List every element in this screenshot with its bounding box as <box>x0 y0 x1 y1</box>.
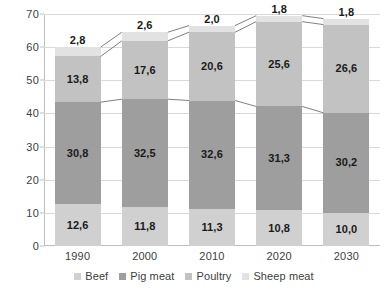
bar-segment-poultry[interactable]: 26,6 <box>323 25 369 113</box>
bar-segment-value-label: 32,6 <box>201 149 223 160</box>
chart-legend: BeefPig meatPoultrySheep meat <box>0 270 388 282</box>
x-axis-label-2000: 2000 <box>132 250 157 262</box>
bar-segment-poultry[interactable]: 20,6 <box>189 32 235 100</box>
bar-segment-sheep-meat[interactable]: 1,8 <box>323 19 369 25</box>
legend-swatch-icon <box>242 273 249 280</box>
bar-group-2000[interactable]: 11,832,517,62,6 <box>122 14 168 246</box>
bar-segment-value-label: 30,8 <box>67 148 89 159</box>
bar-segment-value-label: 13,8 <box>67 74 89 85</box>
bar-segment-value-label: 10,0 <box>335 224 357 235</box>
y-axis-tick-label: 30 <box>26 141 39 153</box>
y-axis-tick-label: 20 <box>26 174 39 186</box>
legend-item-pig-meat[interactable]: Pig meat <box>119 270 174 282</box>
bar-segment-value-label: 32,5 <box>134 148 156 159</box>
y-axis-tick-label: 10 <box>26 207 39 219</box>
bar-group-2020[interactable]: 10,831,325,61,8 <box>256 14 302 246</box>
bar-segment-beef[interactable]: 12,6 <box>55 204 101 246</box>
bar-segment-value-label: 11,8 <box>134 221 155 232</box>
bar-segment-value-label: 10,8 <box>268 223 290 234</box>
bar-group-2010[interactable]: 11,332,620,62,0 <box>189 14 235 246</box>
bar-segment-value-label: 2,0 <box>204 14 220 25</box>
bar-segment-value-label: 30,2 <box>335 157 357 168</box>
bar-segment-pig-meat[interactable]: 31,3 <box>256 106 302 210</box>
x-axis-labels: 19902000201020202030 <box>44 250 380 266</box>
bar-segment-sheep-meat[interactable]: 2,8 <box>55 47 101 56</box>
x-axis-label-1990: 1990 <box>65 250 90 262</box>
plot-area: 010203040506070 12,630,813,82,811,832,51… <box>44 14 380 246</box>
bar-group-1990[interactable]: 12,630,813,82,8 <box>55 14 101 246</box>
bar-segment-value-label: 2,8 <box>70 35 86 46</box>
bar-series-container: 12,630,813,82,811,832,517,62,611,332,620… <box>44 14 380 246</box>
bar-segment-sheep-meat[interactable]: 2,6 <box>122 32 168 41</box>
legend-label: Sheep meat <box>253 270 313 282</box>
bar-segment-value-label: 31,3 <box>268 153 290 164</box>
bar-segment-sheep-meat[interactable]: 1,8 <box>256 16 302 22</box>
bar-segment-value-label: 11,3 <box>201 222 222 233</box>
x-axis-label-2010: 2010 <box>199 250 224 262</box>
bar-segment-value-label: 26,6 <box>335 63 357 74</box>
legend-item-beef[interactable]: Beef <box>74 270 108 282</box>
bar-segment-value-label: 2,6 <box>137 20 153 31</box>
bar-segment-value-label: 20,6 <box>201 61 223 72</box>
y-axis-tick-label: 50 <box>26 74 39 86</box>
bar-segment-pig-meat[interactable]: 30,8 <box>55 102 101 204</box>
legend-swatch-icon <box>74 273 81 280</box>
legend-item-poultry[interactable]: Poultry <box>185 270 231 282</box>
x-axis-label-2030: 2030 <box>334 250 359 262</box>
bar-segment-poultry[interactable]: 17,6 <box>122 41 168 99</box>
legend-item-sheep-meat[interactable]: Sheep meat <box>242 270 313 282</box>
bar-segment-poultry[interactable]: 13,8 <box>55 56 101 102</box>
legend-label: Beef <box>85 270 108 282</box>
legend-swatch-icon <box>185 273 192 280</box>
bar-segment-pig-meat[interactable]: 32,6 <box>189 101 235 209</box>
y-axis-tick-label: 60 <box>26 41 39 53</box>
bar-segment-pig-meat[interactable]: 30,2 <box>323 113 369 213</box>
x-axis-label-2020: 2020 <box>267 250 292 262</box>
bar-segment-beef[interactable]: 10,8 <box>256 210 302 246</box>
legend-label: Pig meat <box>130 270 174 282</box>
bar-segment-poultry[interactable]: 25,6 <box>256 22 302 107</box>
bar-segment-value-label: 17,6 <box>134 65 156 76</box>
y-axis-tick-label: 0 <box>33 240 39 252</box>
bar-segment-beef[interactable]: 11,3 <box>189 209 235 246</box>
bar-segment-beef[interactable]: 10,0 <box>323 213 369 246</box>
bar-segment-value-label: 1,8 <box>271 4 287 15</box>
bar-segment-pig-meat[interactable]: 32,5 <box>122 99 168 207</box>
bar-segment-value-label: 12,6 <box>67 220 89 231</box>
bar-group-2030[interactable]: 10,030,226,61,8 <box>323 14 369 246</box>
legend-swatch-icon <box>119 273 126 280</box>
stacked-bar-chart: 010203040506070 12,630,813,82,811,832,51… <box>0 0 388 292</box>
bar-segment-sheep-meat[interactable]: 2,0 <box>189 26 235 33</box>
y-axis-tick-label: 70 <box>26 8 39 20</box>
bar-segment-value-label: 25,6 <box>268 59 290 70</box>
bar-segment-value-label: 1,8 <box>339 7 355 18</box>
legend-label: Poultry <box>196 270 231 282</box>
y-axis-tick-label: 40 <box>26 107 39 119</box>
bar-segment-beef[interactable]: 11,8 <box>122 207 168 246</box>
